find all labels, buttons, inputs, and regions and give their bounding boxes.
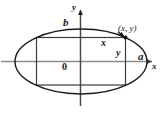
semi-minor-axis-label: b <box>63 17 69 28</box>
x-axis-label: x <box>152 62 157 71</box>
segment-y-label: y <box>116 48 120 58</box>
point-coordinates-label: (x, y) <box>118 24 136 33</box>
y-axis-label: y <box>72 3 76 12</box>
origin-label: 0 <box>62 62 67 72</box>
semi-major-axis-label: a <box>138 51 144 62</box>
ellipse-rectangle-figure: y x b a 0 (x, y) x y <box>0 0 165 116</box>
segment-x-label: x <box>101 38 106 48</box>
